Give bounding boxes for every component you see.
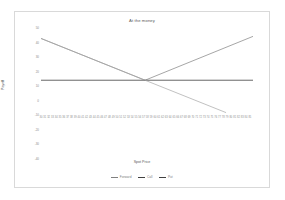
x-axis-tick: 72 <box>199 117 202 120</box>
x-axis-tick: 73 <box>203 117 206 120</box>
x-axis-tick: 82 <box>237 117 240 120</box>
y-axis-tick: 40 <box>36 41 39 45</box>
plot-area <box>41 28 253 122</box>
chart-title: At the money <box>15 18 269 23</box>
x-axis-tick: 37 <box>66 117 69 120</box>
legend-label: Forward <box>120 175 132 179</box>
y-axis-tick: 0 <box>37 99 39 103</box>
y-axis-tick: 20 <box>36 70 39 74</box>
x-axis-tick: 43 <box>89 117 92 120</box>
x-axis-tick: 60 <box>153 117 156 120</box>
x-axis-tick: 45 <box>97 117 100 120</box>
y-axis-label: Payoff <box>1 80 5 90</box>
y-axis-tick: -10 <box>35 113 39 117</box>
x-axis-tick: 32 <box>47 117 50 120</box>
x-axis-tick: 69 <box>188 117 191 120</box>
plot-svg <box>41 28 253 122</box>
x-axis-label: Spot Price <box>15 160 269 164</box>
y-axis-tick: 30 <box>36 55 39 59</box>
x-axis-tick: 77 <box>218 117 221 120</box>
legend-swatch-icon <box>111 177 118 178</box>
x-axis-tick: 67 <box>180 117 183 120</box>
x-axis-tick: 31 <box>43 117 46 120</box>
x-axis-tick: 56 <box>138 117 141 120</box>
x-axis-tick: 52 <box>123 117 126 120</box>
x-axis-tick: 65 <box>172 117 175 120</box>
legend-swatch-icon <box>138 177 145 178</box>
x-axis-tick: 55 <box>134 117 137 120</box>
x-axis-tick: 79 <box>226 117 229 120</box>
x-axis-tick: 34 <box>55 117 58 120</box>
x-axis-tick: 48 <box>108 117 111 120</box>
x-axis-tick: 85 <box>248 117 251 120</box>
legend-label: Put <box>168 175 173 179</box>
y-axis-tick: -20 <box>35 128 39 132</box>
x-axis-tick: 40 <box>78 117 81 120</box>
x-axis-tick: 62 <box>161 117 164 120</box>
x-axis-tick: 54 <box>131 117 134 120</box>
x-axis-tick: 41 <box>81 117 84 120</box>
legend-swatch-icon <box>159 177 166 178</box>
chart-legend: ForwardCallPut <box>15 175 269 179</box>
x-axis-tick: 33 <box>51 117 54 120</box>
x-axis-tick: 63 <box>165 117 168 120</box>
x-axis-tick: 59 <box>150 117 153 120</box>
y-axis-tick: -30 <box>35 142 39 146</box>
legend-item[interactable]: Forward <box>111 175 131 179</box>
x-axis-tick: 57 <box>142 117 145 120</box>
x-axis-tick: 74 <box>207 117 210 120</box>
series-line-forward <box>41 36 253 80</box>
x-axis-tick: 39 <box>74 117 77 120</box>
x-axis-tick: 47 <box>104 117 107 120</box>
x-axis-tick: 78 <box>222 117 225 120</box>
x-axis-tick: 58 <box>146 117 149 120</box>
x-axis-tick: 68 <box>184 117 187 120</box>
x-axis-tick: 61 <box>157 117 160 120</box>
x-axis-tick: 64 <box>169 117 172 120</box>
x-axis-tick: 53 <box>127 117 130 120</box>
x-axis-tick: 46 <box>100 117 103 120</box>
x-axis-tick: 83 <box>241 117 244 120</box>
x-axis-tick-group: 3031323334353637383940414243444546474849… <box>41 117 253 123</box>
x-axis-tick: 38 <box>70 117 73 120</box>
x-axis-tick: 71 <box>195 117 198 120</box>
series-line-put <box>41 38 226 112</box>
x-axis-tick: 81 <box>233 117 236 120</box>
legend-label: Call <box>147 175 153 179</box>
x-axis-tick: 51 <box>119 117 122 120</box>
x-axis-tick: 50 <box>115 117 118 120</box>
x-axis-tick: 76 <box>214 117 217 120</box>
series-group <box>41 36 253 112</box>
legend-item[interactable]: Call <box>138 175 152 179</box>
x-axis-tick: 49 <box>112 117 115 120</box>
x-axis-tick: 44 <box>93 117 96 120</box>
y-axis-tick: 10 <box>36 84 39 88</box>
legend-item[interactable]: Put <box>159 175 172 179</box>
x-axis-tick: 30 <box>40 117 43 120</box>
x-axis-tick: 36 <box>62 117 65 120</box>
x-axis-tick: 84 <box>245 117 248 120</box>
x-axis-tick: 70 <box>191 117 194 120</box>
chart-container: At the money Payoff 50403020100-10-20-30… <box>14 11 270 188</box>
x-axis-tick: 75 <box>210 117 213 120</box>
x-axis-tick: 42 <box>85 117 88 120</box>
x-axis-tick: 66 <box>176 117 179 120</box>
x-axis-tick: 35 <box>59 117 62 120</box>
y-axis-tick: 50 <box>36 26 39 30</box>
x-axis-tick: 80 <box>229 117 232 120</box>
